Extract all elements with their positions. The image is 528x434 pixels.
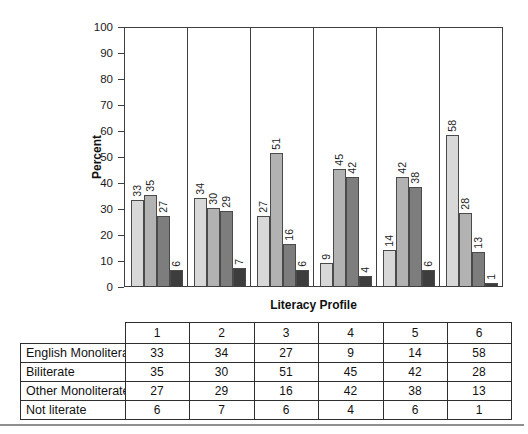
y-tick-label: 10 <box>80 254 113 268</box>
table-cell: 38 <box>383 382 447 401</box>
bar-not-literate <box>170 270 183 286</box>
figure-literacy-profile-chart: Percent 33352763430297275116694542414423… <box>0 0 528 434</box>
bar-value-label: 4 <box>359 267 372 273</box>
table-row-label: Other Monoliterate <box>21 382 126 401</box>
bar-value-label: 58 <box>446 120 459 132</box>
y-tick-mark <box>118 53 124 54</box>
chart-panel-group-2: 3430297 <box>188 28 251 286</box>
bar-value-label: 16 <box>283 229 296 241</box>
table-cell: 4 <box>318 401 383 420</box>
bar-value-label: 42 <box>396 162 409 174</box>
y-tick-label: 30 <box>80 202 113 216</box>
bar-not-literate <box>233 268 246 286</box>
plot-area: 3335276343029727511669454241442386582813… <box>124 27 503 287</box>
table-row-label: Not literate <box>21 401 126 420</box>
y-tick-mark <box>118 157 124 158</box>
y-tick-label: 60 <box>80 124 113 138</box>
bar-not-literate <box>296 270 309 286</box>
chart-panel-group-4: 945424 <box>314 28 377 286</box>
x-axis-title: Literacy Profile <box>124 298 503 312</box>
table-row: Not literate676461 <box>21 401 512 420</box>
bar-other-monoliterate <box>472 252 485 286</box>
bar-biliterate <box>207 208 220 286</box>
bar-value-label: 6 <box>296 261 309 267</box>
table-corner-cell <box>21 323 126 344</box>
table-cell: 27 <box>254 344 318 363</box>
table-cell: 28 <box>447 363 511 382</box>
bar-other-monoliterate <box>346 177 359 286</box>
bar-value-label: 6 <box>422 261 435 267</box>
y-tick-mark <box>118 79 124 80</box>
table-cell: 58 <box>447 344 511 363</box>
table-row-label: English Monoliterate <box>21 344 126 363</box>
bar-biliterate <box>333 169 346 286</box>
bar-value-label: 30 <box>207 193 220 205</box>
bar-value-label: 42 <box>346 162 359 174</box>
table-cell: 1 <box>447 401 511 420</box>
bar-value-label: 45 <box>333 154 346 166</box>
data-table: 123456English Monoliterate33342791458Bil… <box>20 322 512 420</box>
bar-not-literate <box>485 283 498 286</box>
y-tick-mark <box>118 287 124 288</box>
chart-panel-group-1: 3335276 <box>125 28 188 286</box>
table-header-row: 123456 <box>21 323 512 344</box>
table-cell: 14 <box>383 344 447 363</box>
data-table-body: 123456English Monoliterate33342791458Bil… <box>21 323 512 420</box>
y-tick-label: 70 <box>80 98 113 112</box>
y-tick-mark <box>118 105 124 106</box>
table-cell: 16 <box>254 382 318 401</box>
bar-value-label: 13 <box>472 237 485 249</box>
bar-value-label: 29 <box>220 196 233 208</box>
y-tick-label: 100 <box>80 20 113 34</box>
table-column-header: 4 <box>318 323 383 344</box>
table-cell: 9 <box>318 344 383 363</box>
bar-value-label: 38 <box>409 172 422 184</box>
table-cell: 42 <box>383 363 447 382</box>
table-cell: 27 <box>125 382 189 401</box>
y-tick-mark <box>118 209 124 210</box>
table-cell: 42 <box>318 382 383 401</box>
y-tick-label: 90 <box>80 46 113 60</box>
chart-panel-group-5: 1442386 <box>377 28 440 286</box>
table-cell: 35 <box>125 363 189 382</box>
y-tick-mark <box>118 261 124 262</box>
table-cell: 29 <box>189 382 254 401</box>
table-column-header: 1 <box>125 323 189 344</box>
bar-biliterate <box>459 213 472 286</box>
bar-value-label: 33 <box>131 185 144 197</box>
table-cell: 6 <box>383 401 447 420</box>
bar-value-label: 27 <box>257 201 270 213</box>
bar-value-label: 1 <box>485 274 498 280</box>
bar-value-label: 35 <box>144 180 157 192</box>
bar-biliterate <box>144 195 157 286</box>
bar-value-label: 7 <box>233 259 246 265</box>
table-column-header: 2 <box>189 323 254 344</box>
y-tick-mark <box>118 131 124 132</box>
bar-english-monoliterate <box>131 200 144 286</box>
bar-english-monoliterate <box>446 135 459 286</box>
bar-english-monoliterate <box>383 250 396 286</box>
bar-value-label: 34 <box>194 183 207 195</box>
bar-value-label: 51 <box>270 138 283 150</box>
y-tick-mark <box>118 235 124 236</box>
table-cell: 6 <box>125 401 189 420</box>
bar-value-label: 27 <box>157 201 170 213</box>
table-row: Other Monoliterate272916423813 <box>21 382 512 401</box>
table-row-label: Biliterate <box>21 363 126 382</box>
bar-not-literate <box>422 270 435 286</box>
table-cell: 6 <box>254 401 318 420</box>
y-tick-label: 50 <box>80 150 113 164</box>
y-tick-mark <box>118 27 124 28</box>
bar-value-label: 6 <box>170 261 183 267</box>
chart-panel-group-6: 5828131 <box>440 28 502 286</box>
bar-english-monoliterate <box>194 198 207 286</box>
bar-other-monoliterate <box>409 187 422 286</box>
chart-panel-group-3: 2751166 <box>251 28 314 286</box>
table-cell: 34 <box>189 344 254 363</box>
table-cell: 51 <box>254 363 318 382</box>
bar-biliterate <box>396 177 409 286</box>
bar-other-monoliterate <box>157 216 170 286</box>
y-tick-label: 80 <box>80 72 113 86</box>
table-cell: 7 <box>189 401 254 420</box>
table-cell: 30 <box>189 363 254 382</box>
